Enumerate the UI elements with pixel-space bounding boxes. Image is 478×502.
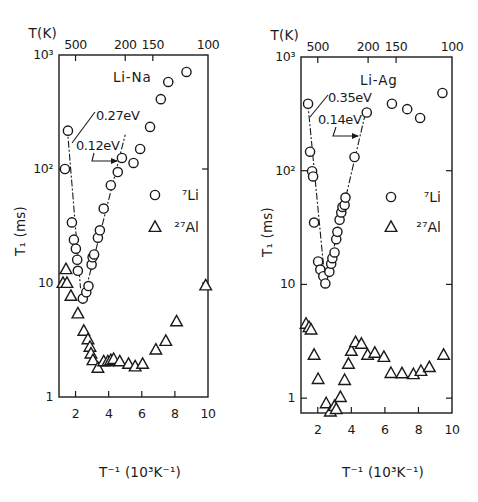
li7-point: [129, 158, 138, 167]
al27-point: [160, 335, 172, 345]
x-tick-label: 10: [200, 406, 216, 421]
li7-point: [438, 88, 447, 97]
li7-point: [341, 193, 350, 202]
al27-point: [369, 347, 381, 357]
li7-point: [362, 108, 371, 117]
top-tick-label: 500: [306, 39, 329, 54]
li7-point: [84, 281, 93, 290]
y-tick-label: 1: [287, 390, 295, 405]
li7-point: [73, 255, 82, 264]
al27-point: [339, 374, 351, 384]
li7-point: [69, 235, 78, 244]
legend-circle-icon: [150, 190, 159, 199]
series-al27: [300, 318, 449, 416]
li7-point: [403, 105, 412, 114]
li7-point: [321, 279, 330, 288]
y-tick-label: 10: [280, 276, 296, 291]
y-tick-label: 10: [38, 275, 54, 290]
panel-li-ag: 24681011010²10³500200150100T(K)T⁻¹ (10³K…: [259, 27, 464, 480]
y-axis-title: T₁ (ms): [12, 206, 28, 257]
legend-label: ⁷Li: [424, 189, 441, 205]
y-tick-label: 10³: [33, 47, 53, 62]
li7-point: [73, 266, 82, 275]
top-tick-label: 150: [385, 39, 408, 54]
legend-label: ²⁷Al: [416, 219, 441, 235]
activation-energy-label: 0.12eV: [76, 138, 120, 153]
x-tick-label: 6: [381, 422, 389, 437]
al27-point: [343, 358, 355, 368]
li7-point: [89, 250, 98, 259]
li7-point: [333, 227, 342, 236]
panel-li-na: 24681011010²10³500200150100T(K)T⁻¹ (10³K…: [12, 25, 220, 480]
y-tick-label: 10³: [275, 49, 295, 64]
al27-point: [308, 349, 320, 359]
li7-point: [303, 99, 312, 108]
x-tick-label: 2: [72, 406, 80, 421]
li7-point: [309, 218, 318, 227]
legend-label: ⁷Li: [182, 187, 199, 203]
top-axis-title: T(K): [28, 25, 57, 41]
legend-item: ⁷Li: [386, 189, 441, 205]
li7-point: [145, 122, 154, 131]
activation-energy-label: 0.35eV: [328, 90, 372, 105]
top-tick-label: 100: [197, 37, 220, 52]
top-tick-label: 100: [441, 39, 464, 54]
legend-item: ²⁷Al: [385, 219, 441, 235]
li7-point: [164, 77, 173, 86]
figure: 24681011010²10³500200150100T(K)T⁻¹ (10³K…: [0, 0, 478, 502]
x-axis-title: T⁻¹ (10³K⁻¹): [98, 464, 181, 480]
y-tick-label: 10²: [33, 161, 53, 176]
li7-point: [182, 67, 191, 76]
li7-point: [117, 153, 126, 162]
top-tick-label: 150: [141, 37, 164, 52]
x-tick-label: 4: [348, 422, 356, 437]
plot-frame: [301, 57, 452, 413]
li7-point: [95, 226, 104, 235]
li7-point: [305, 147, 314, 156]
x-tick-label: 4: [105, 406, 113, 421]
li7-point: [106, 181, 115, 190]
li7-point: [113, 167, 122, 176]
li7-point: [387, 99, 396, 108]
al27-point: [335, 391, 347, 401]
li7-point: [67, 218, 76, 227]
al27-point: [65, 290, 77, 300]
activation-energy-label: 0.27eV: [96, 108, 140, 123]
li7-point: [136, 144, 145, 153]
top-tick-label: 200: [357, 39, 380, 54]
legend-triangle-icon: [385, 221, 397, 231]
legend-label: ²⁷Al: [174, 219, 199, 235]
al27-point: [385, 367, 397, 377]
al27-point: [312, 373, 324, 383]
al27-point: [424, 361, 436, 371]
li7-point: [416, 113, 425, 122]
activation-energy-label: 0.14eV: [318, 112, 362, 127]
y-tick-label: 1: [45, 389, 53, 404]
y-tick-label: 10²: [275, 163, 295, 178]
legend-item: ²⁷Al: [149, 219, 199, 235]
panel-title: Li-Na: [113, 69, 152, 85]
y-axis-title: T₁ (ms): [259, 207, 275, 258]
al27-point: [396, 367, 408, 377]
al27-point: [72, 307, 84, 317]
al27-point: [200, 279, 212, 289]
x-axis-title: T⁻¹ (10³K⁻¹): [341, 464, 424, 480]
li7-point: [156, 95, 165, 104]
al27-point: [438, 349, 450, 359]
x-tick-label: 10: [444, 422, 460, 437]
legend-item: ⁷Li: [150, 187, 199, 203]
x-tick-label: 8: [171, 406, 179, 421]
panel-title: Li-Ag: [360, 72, 398, 88]
al27-point: [60, 263, 72, 273]
arrowhead-icon: [352, 133, 359, 139]
series-li7: [60, 67, 191, 303]
x-tick-label: 8: [415, 422, 423, 437]
li7-point: [330, 248, 339, 257]
legend-circle-icon: [386, 192, 395, 201]
li7-point: [308, 172, 317, 181]
top-axis-title: T(K): [270, 27, 299, 43]
top-tick-label: 500: [64, 37, 87, 52]
al27-point: [171, 315, 183, 325]
top-tick-label: 200: [114, 37, 137, 52]
li7-point: [99, 204, 108, 213]
